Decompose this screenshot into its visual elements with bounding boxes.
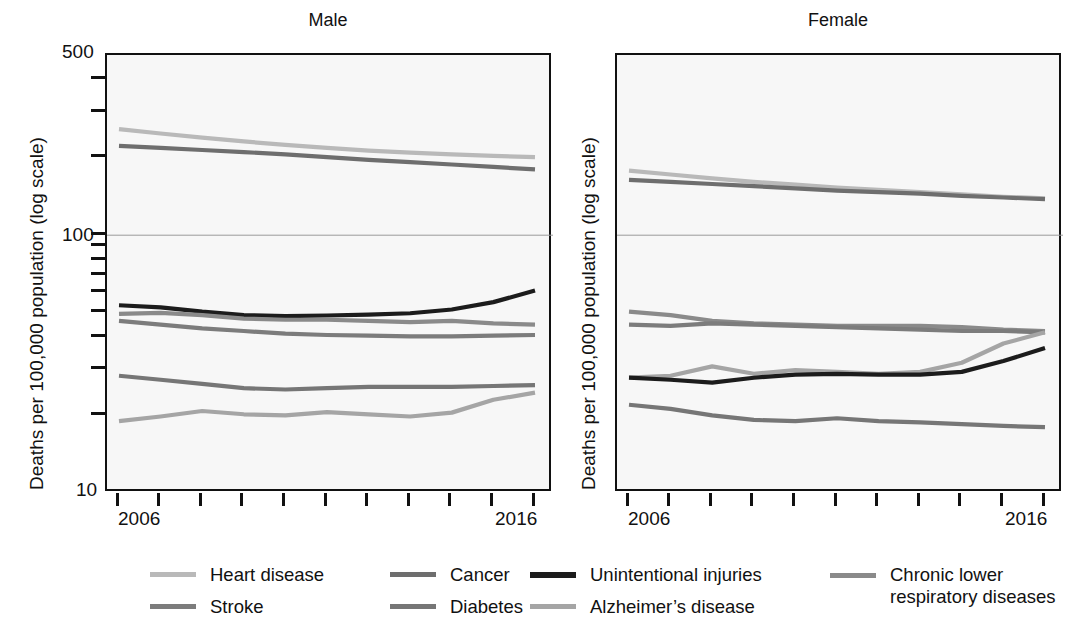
legend-label-diabetes: Diabetes (450, 596, 523, 618)
legend-entry-chronic-lower-respiratory-diseases[interactable]: Chronic lower respiratory diseases (830, 564, 1056, 608)
series-line (629, 180, 1045, 199)
legend-entry-heart-disease[interactable]: Heart disease (150, 564, 324, 586)
x-axis-tick (626, 493, 629, 506)
x-axis-tick (157, 493, 160, 506)
legend-swatch-heart-disease (150, 572, 196, 577)
panel-title-male: Male (105, 10, 551, 31)
legend-entry-alzheimers-disease[interactable]: Alzheimer’s disease (530, 596, 755, 618)
y-axis-tick (91, 412, 105, 415)
y-axis-tick (91, 366, 105, 369)
legend-swatch-stroke (150, 604, 196, 609)
y-axis-tick (91, 272, 105, 275)
series-line (119, 129, 535, 157)
y-tick-label-500: 500 (62, 41, 94, 63)
x-axis-tick (532, 493, 535, 506)
x-axis-tick (958, 493, 961, 506)
legend-swatch-chronic-lower-respiratory-diseases (830, 573, 876, 578)
legend-label-chronic-lower-respiratory-diseases: Chronic lower respiratory diseases (890, 564, 1056, 608)
x-axis-tick (116, 493, 119, 506)
y-axis-tick (91, 334, 105, 337)
legend-swatch-cancer (390, 572, 436, 577)
legend-entry-diabetes[interactable]: Diabetes (390, 596, 523, 618)
x-axis-tick (1042, 493, 1045, 506)
x-axis-tick (365, 493, 368, 506)
x-axis-tick (834, 493, 837, 506)
series-line (629, 405, 1045, 427)
legend-swatch-diabetes (390, 604, 436, 609)
x-axis-tick (448, 493, 451, 506)
y-axis-tick (91, 109, 105, 112)
y-axis-tick (91, 243, 105, 246)
y-axis-tick (91, 154, 105, 157)
series-line (119, 376, 535, 390)
legend-label-heart-disease: Heart disease (210, 564, 324, 586)
y-axis-tick (91, 309, 105, 312)
x-tick-label-2016-male: 2016 (495, 508, 537, 530)
legend-label-cancer: Cancer (450, 564, 510, 586)
y-tick-label-10: 10 (76, 479, 97, 501)
x-axis-tick (875, 493, 878, 506)
x-axis-tick (792, 493, 795, 506)
y-axis-tick (91, 76, 105, 79)
chart-root: Male Female Deaths per 100,000 populatio… (0, 0, 1082, 629)
panel-title-female: Female (615, 10, 1061, 31)
x-axis-tick (1000, 493, 1003, 506)
y-axis-tick (91, 257, 105, 260)
y-tick-label-100: 100 (62, 224, 94, 246)
x-tick-label-2006-male: 2006 (118, 508, 160, 530)
x-tick-label-2016-female: 2016 (1005, 508, 1047, 530)
x-tick-label-2006-female: 2006 (628, 508, 670, 530)
x-axis-tick (324, 493, 327, 506)
y-axis-tick (91, 232, 105, 235)
x-axis-tick (667, 493, 670, 506)
legend-label-chronic-lower-line2: respiratory diseases (890, 586, 1056, 608)
y-axis-title-right: Deaths per 100,000 population (log scale… (578, 137, 600, 490)
y-axis-tick (91, 289, 105, 292)
x-axis-tick (917, 493, 920, 506)
series-line (629, 332, 1045, 377)
legend-entry-unintentional-injuries[interactable]: Unintentional injuries (530, 564, 762, 586)
legend-label-chronic-lower-line1: Chronic lower (890, 564, 1003, 585)
legend-label-unintentional-injuries: Unintentional injuries (590, 564, 762, 586)
legend-swatch-alzheimers-disease (530, 604, 576, 609)
x-axis-tick (240, 493, 243, 506)
x-axis-tick (407, 493, 410, 506)
series-line (119, 393, 535, 421)
series-canvas-male (107, 55, 553, 493)
y-axis-title-left: Deaths per 100,000 population (log scale… (26, 137, 48, 490)
x-axis-tick (199, 493, 202, 506)
legend-entry-cancer[interactable]: Cancer (390, 564, 510, 586)
x-axis-tick (750, 493, 753, 506)
x-axis-tick (282, 493, 285, 506)
plot-area-male (105, 53, 551, 491)
legend-label-alzheimers-disease: Alzheimer’s disease (590, 596, 755, 618)
plot-area-female (615, 53, 1061, 491)
legend-label-stroke: Stroke (210, 596, 263, 618)
x-axis-tick (709, 493, 712, 506)
legend-entry-stroke[interactable]: Stroke (150, 596, 263, 618)
legend-swatch-unintentional-injuries (530, 572, 576, 578)
chart-legend: Heart disease Cancer Unintentional injur… (0, 556, 1082, 626)
x-axis-tick (490, 493, 493, 506)
series-canvas-female (617, 55, 1063, 493)
